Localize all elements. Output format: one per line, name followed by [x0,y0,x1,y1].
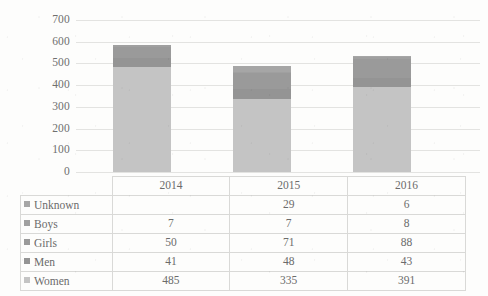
bar-segment-women [113,67,171,172]
table-cell: 8 [348,215,466,234]
y-axis-tick-label: 700 [26,14,70,26]
table-row: Girls507188 [21,234,466,253]
table-header-2014: 2014 [112,177,230,196]
legend-swatch-icon [24,201,30,207]
y-axis-tick-label: 300 [26,101,70,113]
table-cell: 88 [348,234,466,253]
table-row: Unknown296 [21,196,466,215]
bar-column-2015 [233,66,291,172]
table-cell: 6 [348,196,466,215]
table-header-row: 201420152016 [21,177,466,196]
table-cell: 335 [230,272,348,291]
table-cell: 391 [348,272,466,291]
table-cell: 41 [112,253,230,272]
legend-item-unknown: Unknown [21,196,113,215]
bar-segment-girls [113,47,171,58]
legend-swatch-icon [24,277,30,283]
bar-segment-girls [353,59,411,78]
chart-plot-area: 0100200300400500600700 [0,0,488,178]
legend-label: Girls [34,237,57,249]
table-cell [112,196,230,215]
legend-swatch-icon [24,239,30,245]
legend-label: Men [34,256,55,268]
table-header-2016: 2016 [348,177,466,196]
bar-column-2014 [113,45,171,172]
table-corner-cell [21,177,113,196]
gridline [76,172,480,173]
legend-item-boys: Boys [21,215,113,234]
chart-data-table: 201420152016Unknown296Boys778Girls507188… [20,176,466,291]
table-cell: 7 [112,215,230,234]
legend-item-women: Women [21,272,113,291]
legend-swatch-icon [24,258,30,264]
bar-segment-women [233,99,291,172]
legend-label: Unknown [34,199,79,211]
bar-segment-men [113,58,171,67]
legend-swatch-icon [24,220,30,226]
table-cell: 7 [230,215,348,234]
legend-label: Women [34,275,69,287]
table-cell: 43 [348,253,466,272]
bar-column-2016 [353,56,411,172]
table-cell: 50 [112,234,230,253]
y-axis-tick-label: 200 [26,123,70,135]
bar-segment-men [233,89,291,99]
table-row: Men414843 [21,253,466,272]
table-cell: 71 [230,234,348,253]
gridline [76,20,480,21]
table-row: Boys778 [21,215,466,234]
bar-segment-women [353,87,411,172]
bar-segment-girls [233,73,291,88]
table-row: Women485335391 [21,272,466,291]
table-cell: 29 [230,196,348,215]
bar-segment-men [353,78,411,87]
chart-page: 0100200300400500600700 201420152016Unkno… [0,0,488,296]
table-header-2015: 2015 [230,177,348,196]
legend-label: Boys [34,218,58,230]
legend-item-girls: Girls [21,234,113,253]
y-axis-tick-label: 500 [26,58,70,70]
y-axis-tick-label: 600 [26,36,70,48]
legend-item-men: Men [21,253,113,272]
y-axis-tick-label: 100 [26,145,70,157]
table-cell: 48 [230,253,348,272]
gridline [76,42,480,43]
table-cell: 485 [112,272,230,291]
y-axis-tick-label: 400 [26,79,70,91]
